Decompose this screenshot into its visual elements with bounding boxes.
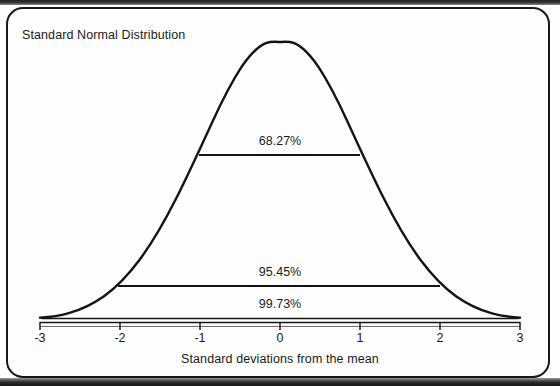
sigma-3-label: 99.73% xyxy=(220,297,340,311)
x-tick-label-0: 0 xyxy=(260,331,300,345)
x-tick-label--1: -1 xyxy=(180,331,220,345)
figure-canvas: Standard Normal Distribution 68.27% 95.4… xyxy=(0,0,560,386)
x-tick-label--3: -3 xyxy=(20,331,60,345)
x-axis-title: Standard deviations from the mean xyxy=(0,352,560,366)
scan-edge-bottom xyxy=(0,378,560,386)
x-tick-label--2: -2 xyxy=(100,331,140,345)
sigma-2-label: 95.45% xyxy=(220,265,340,279)
x-tick-label-3: 3 xyxy=(500,331,540,345)
normal-distribution-plot xyxy=(0,0,560,386)
sigma-1-label: 68.27% xyxy=(220,134,340,148)
x-tick-label-2: 2 xyxy=(420,331,460,345)
x-tick-label-1: 1 xyxy=(340,331,380,345)
